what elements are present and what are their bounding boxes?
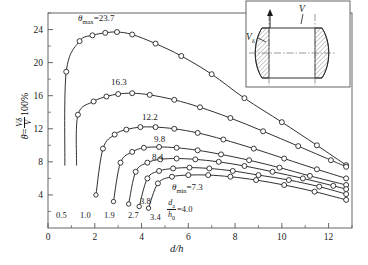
data-point-marker xyxy=(221,137,226,142)
data-point-marker xyxy=(100,146,105,151)
data-point-marker xyxy=(141,145,146,150)
data-point-marker xyxy=(157,144,162,149)
start-label-3-4: 3.4 xyxy=(150,212,161,222)
start-label-da-h0-ratio: da h0 =4.0 xyxy=(167,198,192,221)
y-axis-percent-suffix: 100% xyxy=(19,93,30,116)
data-point-marker xyxy=(153,125,158,130)
y-tick-label: 8 xyxy=(38,157,43,167)
y-axis-fraction: Vδ V xyxy=(16,117,33,128)
chart-figure: 0246810124812162024 θ = Vδ V 100% d/h θm… xyxy=(0,0,368,265)
data-point-marker xyxy=(172,126,177,131)
data-point-marker xyxy=(146,206,150,210)
theta-min-value: =7.3 xyxy=(187,182,203,192)
data-point-marker xyxy=(116,92,121,97)
data-point-marker xyxy=(307,173,312,178)
data-point-marker xyxy=(75,112,80,117)
y-axis-equals: = xyxy=(19,129,30,135)
data-point-marker xyxy=(111,199,115,203)
curve-label-12-2: 12.2 xyxy=(142,112,158,122)
data-point-marker xyxy=(94,193,98,197)
x-tick-label: 10 xyxy=(277,232,287,242)
data-point-marker xyxy=(247,158,252,163)
curve-label-16-3: 16.3 xyxy=(111,77,127,87)
start-label-2-7: 2.7 xyxy=(128,210,139,220)
data-point-marker xyxy=(130,91,135,96)
y-axis-fraction-denominator: V xyxy=(25,119,33,126)
curve-label-9-8: 9.8 xyxy=(154,134,165,144)
data-point-marker xyxy=(130,149,135,154)
x-tick-label: 8 xyxy=(233,232,238,242)
data-point-marker xyxy=(153,41,158,46)
data-point-marker xyxy=(314,167,319,172)
y-tick-label: 24 xyxy=(34,25,44,35)
da-h0-denominator: h0 xyxy=(167,210,176,221)
theta-min-subscript: min xyxy=(176,187,186,194)
inset-vdelta-label: Vδ xyxy=(246,32,255,44)
data-point-marker xyxy=(286,178,291,183)
theta-max-value: =23.7 xyxy=(94,13,115,23)
data-point-marker xyxy=(103,30,108,35)
data-point-marker xyxy=(171,166,176,171)
curve-label-8-4: 8.4 xyxy=(152,152,163,162)
data-point-marker xyxy=(145,176,150,181)
data-point-marker xyxy=(209,72,214,77)
y-tick-label: 20 xyxy=(34,58,44,68)
da-h0-denominator-sub: 0 xyxy=(172,215,175,221)
data-point-marker xyxy=(300,176,305,181)
data-point-marker xyxy=(331,183,336,188)
data-point-marker xyxy=(195,130,200,135)
x-tick-label: 12 xyxy=(324,232,334,242)
data-point-marker xyxy=(126,202,130,206)
data-point-marker xyxy=(256,173,261,178)
data-point-marker xyxy=(219,152,224,157)
data-point-marker xyxy=(270,169,275,174)
data-point-marker xyxy=(112,132,117,137)
da-h0-numerator-sub: a xyxy=(172,203,175,209)
data-point-marker xyxy=(130,32,135,37)
x-tick-label: 6 xyxy=(186,232,191,242)
start-label-1-9: 1.9 xyxy=(104,210,115,220)
data-point-marker xyxy=(242,96,247,101)
theta-vs-d-over-h-chart: 0246810124812162024 xyxy=(0,0,368,265)
data-point-marker xyxy=(157,168,162,173)
data-point-marker xyxy=(91,99,96,104)
data-point-marker xyxy=(169,174,174,179)
data-point-marker xyxy=(174,156,179,161)
data-point-marker xyxy=(344,164,349,169)
data-point-marker xyxy=(118,160,123,165)
x-tick-label: 0 xyxy=(46,232,51,242)
x-axis-label: d/h xyxy=(170,243,183,254)
da-h0-fraction: da h0 xyxy=(167,198,176,221)
data-point-marker xyxy=(147,92,152,97)
data-point-marker xyxy=(114,30,119,35)
curve-label-theta-min: θmin=7.3 xyxy=(172,182,203,194)
data-point-marker xyxy=(133,169,138,174)
data-point-marker xyxy=(277,165,282,170)
data-point-marker xyxy=(279,120,284,125)
data-point-marker xyxy=(155,181,160,186)
data-point-marker xyxy=(317,184,322,189)
data-point-marker xyxy=(193,157,198,162)
curve-label-theta-max: θmax=23.7 xyxy=(78,13,114,25)
data-point-marker xyxy=(207,166,212,171)
data-point-marker xyxy=(104,94,109,99)
data-point-marker xyxy=(174,145,179,150)
data-point-marker xyxy=(90,33,95,38)
data-point-marker xyxy=(187,165,192,170)
data-point-marker xyxy=(195,148,200,153)
y-tick-label: 4 xyxy=(38,190,43,200)
data-point-marker xyxy=(312,189,317,194)
data-point-marker xyxy=(314,143,319,148)
data-point-marker xyxy=(254,178,259,183)
inset-vdelta-subscript: δ xyxy=(252,37,255,44)
start-label-1-0: 1.0 xyxy=(80,210,91,220)
data-point-marker xyxy=(344,197,349,202)
data-point-marker xyxy=(282,156,287,161)
data-point-marker xyxy=(216,159,221,164)
da-h0-numerator: da xyxy=(167,198,176,210)
data-point-marker xyxy=(228,116,233,121)
data-point-marker xyxy=(179,54,184,59)
data-point-marker xyxy=(186,173,191,178)
data-point-marker xyxy=(198,105,203,110)
data-point-marker xyxy=(344,176,349,181)
